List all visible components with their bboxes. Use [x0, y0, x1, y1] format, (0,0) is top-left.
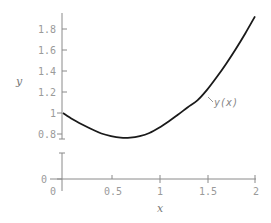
- annotation-leader: [208, 97, 213, 102]
- svg-text:1.4: 1.4: [38, 66, 56, 77]
- curve-annotation: y(x): [213, 97, 238, 108]
- svg-text:1.8: 1.8: [38, 24, 56, 35]
- x-axis-label: x: [157, 202, 164, 215]
- y-axis-label: y: [15, 75, 23, 88]
- svg-text:0: 0: [50, 186, 56, 197]
- svg-text:2: 2: [253, 186, 259, 197]
- svg-text:0: 0: [41, 174, 47, 185]
- y-tick-labels: 1.8 1.6 1.4 1.2 1 0.8 0: [38, 24, 56, 185]
- svg-text:1: 1: [50, 108, 56, 119]
- chart: 1.8 1.6 1.4 1.2 1 0.8 0 0 0.5 1 1.5 2 y …: [0, 0, 271, 223]
- svg-text:1.5: 1.5: [199, 186, 217, 197]
- svg-text:0.8: 0.8: [38, 129, 56, 140]
- svg-text:1.2: 1.2: [38, 87, 56, 98]
- svg-text:1: 1: [157, 186, 163, 197]
- svg-text:1.6: 1.6: [38, 45, 56, 56]
- curve-y-of-x: [63, 16, 255, 137]
- x-tick-labels: 0 0.5 1 1.5 2: [50, 186, 259, 197]
- svg-text:0.5: 0.5: [104, 186, 122, 197]
